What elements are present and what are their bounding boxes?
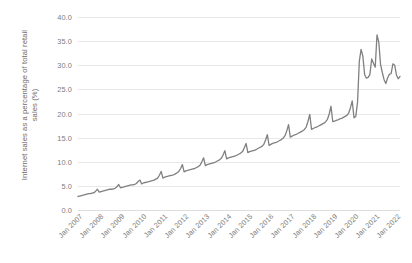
- series-line-internet-sales: [78, 17, 400, 210]
- y-tick-label-30.0: 30.0: [28, 61, 72, 70]
- y-tick-label-5.0: 5.0: [28, 181, 72, 190]
- y-tick-label-20.0: 20.0: [28, 109, 72, 118]
- gridline-0.0: [78, 210, 400, 211]
- internet-sales-line-chart: Internet sales as a percentage of total …: [0, 0, 412, 263]
- plot-area: [78, 17, 400, 210]
- y-tick-label-35.0: 35.0: [28, 37, 72, 46]
- series-polyline: [78, 35, 400, 197]
- y-tick-label-10.0: 10.0: [28, 157, 72, 166]
- y-tick-label-15.0: 15.0: [28, 133, 72, 142]
- y-tick-label-40.0: 40.0: [28, 13, 72, 22]
- y-tick-label-25.0: 25.0: [28, 85, 72, 94]
- x-axis-tick-labels: Jan 2007Jan 2008Jan 2009Jan 2010Jan 2011…: [0, 212, 412, 263]
